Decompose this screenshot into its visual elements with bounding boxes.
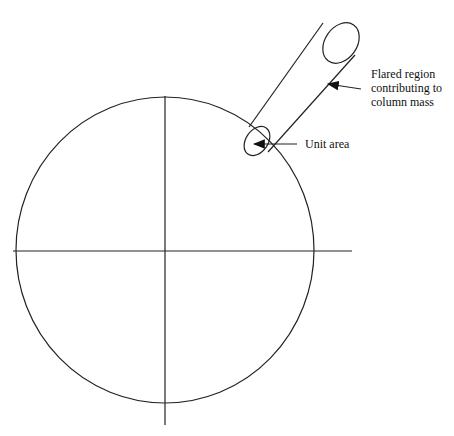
flared-label-line-1: Flared region <box>371 67 442 81</box>
flared-arrow <box>328 84 361 89</box>
flared-label-line-3: column mass <box>371 95 442 109</box>
flared-label-line-2: contributing to <box>371 81 442 95</box>
unit-area-label: Unit area <box>305 137 349 151</box>
flared-region-label: Flared region contributing to column mas… <box>371 67 442 109</box>
diagram-canvas <box>0 0 454 436</box>
